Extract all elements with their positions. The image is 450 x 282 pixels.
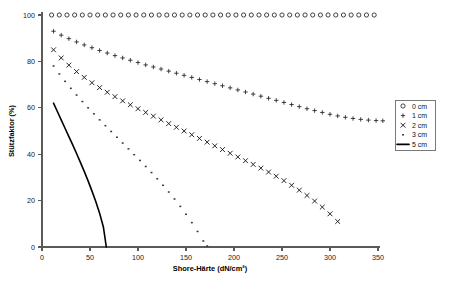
data-point	[64, 81, 66, 83]
data-point	[97, 85, 102, 90]
data-point	[197, 231, 199, 233]
x-axis-tick-label: 50	[86, 253, 94, 262]
data-point	[104, 125, 106, 127]
data-point	[266, 170, 271, 175]
chart-container: 050100150200250300350020406080100 0 cm1 …	[0, 0, 450, 282]
data-point	[128, 148, 130, 150]
data-point	[206, 245, 208, 247]
data-point	[74, 69, 79, 74]
data-point	[274, 98, 278, 102]
data-point	[328, 211, 333, 216]
data-point	[288, 13, 292, 17]
data-point	[174, 71, 178, 75]
y-axis-tick-label: 40	[27, 150, 35, 159]
data-point	[211, 13, 215, 17]
data-point	[167, 69, 171, 73]
data-point	[145, 166, 147, 168]
data-point	[374, 118, 378, 122]
data-point	[97, 48, 101, 52]
data-point	[134, 13, 138, 17]
x-axis-title: Shore-Härte (dN/cm²)	[173, 264, 248, 273]
data-point	[76, 94, 78, 96]
data-point	[266, 96, 270, 100]
data-point	[90, 80, 95, 85]
data-point	[372, 13, 376, 17]
data-point	[202, 240, 204, 242]
data-point	[190, 75, 194, 79]
data-point	[179, 206, 181, 208]
data-point	[120, 56, 124, 60]
series-3-cm	[53, 65, 209, 247]
legend-label: 3 cm	[412, 131, 427, 138]
data-point	[126, 13, 130, 17]
data-point	[197, 77, 201, 81]
data-point	[280, 13, 284, 17]
data-point	[311, 13, 315, 17]
data-point	[174, 125, 179, 130]
series-line-path	[54, 103, 107, 247]
data-point	[335, 219, 340, 224]
data-point	[105, 90, 110, 95]
data-point	[99, 119, 101, 121]
data-point	[212, 143, 217, 148]
data-point	[143, 110, 148, 115]
legend-label: 0 cm	[412, 103, 427, 110]
data-point	[57, 13, 61, 17]
data-point	[188, 13, 192, 17]
data-point	[349, 13, 353, 17]
data-point	[318, 13, 322, 17]
data-point	[191, 222, 193, 224]
y-axis-tick-label: 100	[23, 11, 35, 20]
data-point	[351, 116, 355, 120]
data-point	[116, 137, 118, 139]
data-point	[228, 86, 232, 90]
data-point	[297, 188, 302, 193]
x-axis-tick-label: 100	[132, 253, 144, 262]
data-point	[156, 178, 158, 180]
data-point	[113, 53, 117, 57]
x-axis-tick-label: 350	[372, 253, 384, 262]
data-point	[88, 13, 92, 17]
data-point	[185, 214, 187, 216]
data-point	[297, 104, 301, 108]
data-point	[359, 117, 363, 121]
x-axis-tick-label: 300	[324, 253, 336, 262]
data-point	[70, 88, 72, 90]
data-point	[143, 63, 147, 67]
data-point	[65, 13, 69, 17]
data-point	[259, 94, 263, 98]
data-point	[50, 13, 54, 17]
data-point	[159, 117, 164, 122]
chart-plot-area: 050100150200250300350020406080100 0 cm1 …	[0, 0, 450, 282]
data-point	[305, 193, 310, 198]
data-point	[243, 158, 248, 163]
axes-group: 050100150200250300350020406080100	[23, 11, 384, 262]
data-point	[257, 13, 261, 17]
y-axis-tick-label: 60	[27, 103, 35, 112]
data-point	[166, 121, 171, 126]
data-point	[234, 13, 238, 17]
data-point	[203, 13, 207, 17]
y-axis-tick-label: 20	[27, 196, 35, 205]
chart-legend: 0 cm1 cm2 cm3 cm5 cm	[395, 100, 435, 150]
data-point	[151, 172, 153, 174]
data-point	[249, 13, 253, 17]
data-point	[142, 13, 146, 17]
data-point	[236, 88, 240, 92]
data-point	[272, 13, 276, 17]
y-axis-title: Stützfaktor (%)	[7, 104, 16, 157]
data-point	[162, 185, 164, 187]
series-1-cm	[51, 29, 385, 123]
data-point	[320, 205, 325, 210]
data-point	[82, 75, 87, 80]
data-point	[120, 98, 125, 103]
data-point	[303, 13, 307, 17]
legend-label: 5 cm	[412, 141, 427, 148]
data-point	[180, 13, 184, 17]
data-point	[151, 65, 155, 69]
x-axis-tick-label: 0	[40, 253, 44, 262]
data-point	[119, 13, 123, 17]
data-point	[136, 60, 140, 64]
data-point	[205, 140, 210, 145]
data-point	[139, 160, 141, 162]
